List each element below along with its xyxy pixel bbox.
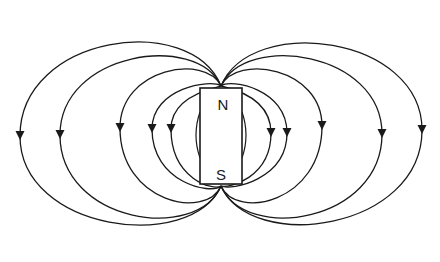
bar-magnet-field-diagram: N S: [0, 0, 440, 262]
arrow-down-icon: [148, 124, 157, 133]
arrow-down-icon: [267, 128, 276, 137]
north-pole-label: N: [218, 96, 229, 113]
arrow-down-icon: [56, 130, 65, 139]
field-diagram-canvas: N S: [0, 0, 440, 262]
arrow-down-icon: [418, 125, 427, 134]
south-pole-label: S: [216, 166, 226, 183]
field-line-right: [221, 56, 382, 218]
arrow-down-icon: [283, 128, 292, 137]
arrow-down-icon: [378, 129, 387, 138]
arrow-down-icon: [318, 121, 327, 130]
arrow-down-icon: [167, 124, 176, 133]
field-line-left: [60, 56, 221, 218]
arrow-down-icon: [116, 123, 125, 132]
arrow-down-icon: [16, 131, 25, 140]
